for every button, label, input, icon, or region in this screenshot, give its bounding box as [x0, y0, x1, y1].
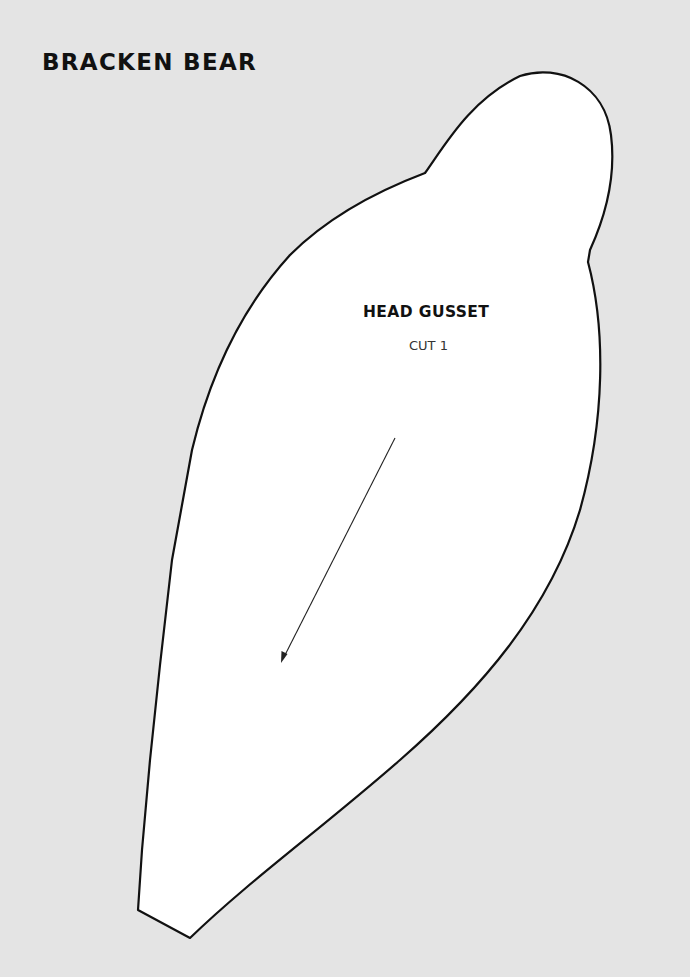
pattern-piece-head-gusset [0, 0, 690, 977]
pattern-cut-instruction: CUT 1 [409, 339, 448, 352]
pattern-piece-name: HEAD GUSSET [363, 305, 489, 321]
pattern-outline [138, 72, 612, 938]
